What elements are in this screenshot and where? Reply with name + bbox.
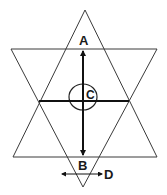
label-c: C bbox=[86, 88, 95, 102]
label-a: A bbox=[79, 33, 89, 48]
star-diagram: A C B D bbox=[0, 0, 167, 195]
label-b: B bbox=[78, 158, 87, 173]
diagram-svg: A C B D bbox=[0, 0, 167, 195]
label-d: D bbox=[104, 167, 113, 182]
